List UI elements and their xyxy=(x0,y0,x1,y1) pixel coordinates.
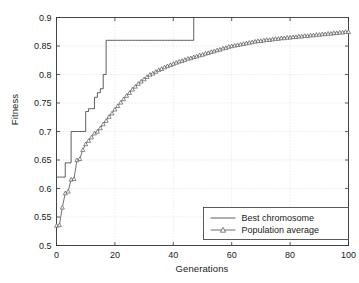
figure-canvas: 0204060801000.50.550.60.650.70.750.80.85… xyxy=(0,0,359,283)
svg-text:20: 20 xyxy=(110,250,120,260)
svg-text:0.5: 0.5 xyxy=(39,241,52,251)
y-axis-label: Fitness xyxy=(9,80,20,140)
svg-text:0.75: 0.75 xyxy=(34,98,52,108)
chart-legend: Best chromosomePopulation average xyxy=(204,208,349,240)
svg-text:60: 60 xyxy=(227,250,237,260)
svg-text:0.8: 0.8 xyxy=(39,70,52,80)
legend-item-label: Population average xyxy=(242,225,320,235)
svg-text:40: 40 xyxy=(168,250,178,260)
svg-text:0.55: 0.55 xyxy=(34,212,52,222)
chart-plot: 0204060801000.50.550.60.650.70.750.80.85… xyxy=(0,0,359,283)
svg-text:80: 80 xyxy=(285,250,295,260)
svg-text:100: 100 xyxy=(341,250,356,260)
svg-text:0.7: 0.7 xyxy=(39,127,52,137)
svg-text:0.65: 0.65 xyxy=(34,155,52,165)
svg-text:0.6: 0.6 xyxy=(39,184,52,194)
svg-text:0.9: 0.9 xyxy=(39,13,52,23)
legend-item-label: Best chromosome xyxy=(242,213,315,223)
svg-text:0: 0 xyxy=(54,250,59,260)
data-series-layer xyxy=(55,18,351,228)
svg-text:0.85: 0.85 xyxy=(34,41,52,51)
x-axis-label: Generations xyxy=(56,263,348,274)
